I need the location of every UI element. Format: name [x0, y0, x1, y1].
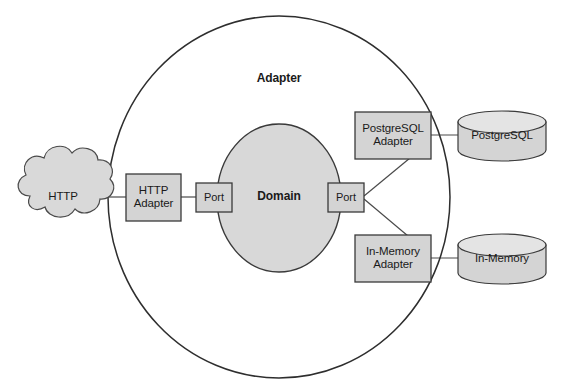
postgresql-db-cylinder — [458, 111, 546, 161]
port-right-box — [328, 183, 364, 212]
postgresql-adapter-box — [355, 112, 431, 159]
architecture-diagram — [0, 0, 563, 391]
connector-port-right-to-in-memory-adapter — [364, 199, 408, 236]
http-adapter-box — [126, 174, 181, 221]
in-memory-adapter-box — [355, 235, 431, 282]
diagram-canvas: Adapter Domain HTTP HTTP Adapter Port Po… — [0, 0, 563, 391]
domain-core-circle — [217, 124, 341, 272]
in-memory-db-cylinder — [458, 234, 546, 284]
http-cloud-shape — [18, 146, 114, 217]
connector-port-right-to-postgresql-adapter — [364, 158, 410, 196]
port-left-box — [196, 183, 232, 212]
